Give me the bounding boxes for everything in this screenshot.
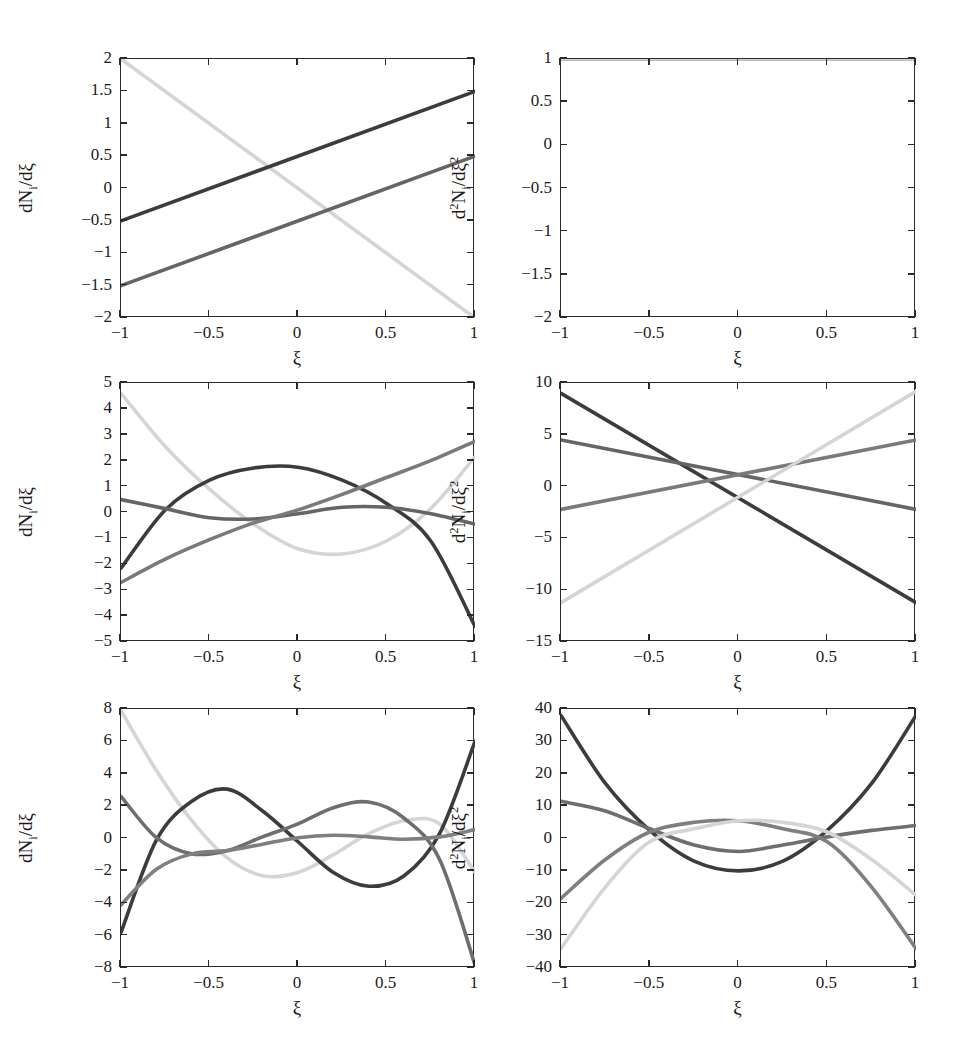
y-tick-label: −6 (62, 925, 112, 945)
y-tickmark-right (908, 187, 915, 189)
y-tickmark-right (908, 316, 915, 318)
plot-area-top-left (120, 58, 474, 317)
y-axis-label: d2Ni/dξ2 (442, 758, 466, 918)
series-line (121, 91, 475, 221)
x-tickmark-top (119, 382, 121, 389)
x-tick-label: −1 (111, 647, 129, 667)
y-tick-label: 2 (62, 795, 112, 815)
y-tickmark-right (908, 804, 915, 806)
y-tickmark (560, 381, 567, 383)
y-tick-label: −1 (502, 221, 552, 241)
y-tick-label: 5 (502, 424, 552, 444)
y-tick-label: 1.5 (62, 80, 112, 100)
series-line (121, 711, 475, 877)
series-line (561, 820, 916, 948)
figure-canvas: −2−1.5−1−0.500.511.52−1−0.500.51ξdNi/dξ−… (0, 0, 975, 1052)
x-tickmark (385, 960, 387, 967)
y-tick-label: 4 (62, 398, 112, 418)
y-tick-label: 30 (502, 730, 552, 750)
x-axis-label: ξ (120, 347, 474, 369)
y-tickmark (560, 144, 567, 146)
x-tickmark (208, 634, 210, 641)
x-tickmark-top (385, 58, 387, 65)
y-tickmark (120, 707, 127, 709)
y-tick-label: 0 (502, 828, 552, 848)
x-tickmark-top (914, 58, 916, 65)
y-tick-label: 5 (62, 372, 112, 392)
x-tickmark-top (826, 382, 828, 389)
x-axis-label: ξ (560, 671, 915, 693)
y-tickmark (120, 966, 127, 968)
x-tickmark-top (208, 382, 210, 389)
y-tickmark-right (908, 934, 915, 936)
y-tickmark-right (908, 740, 915, 742)
y-tick-label: 10 (502, 372, 552, 392)
y-tickmark (560, 485, 567, 487)
y-tickmark (120, 433, 127, 435)
plot-panel-top-right: −2−1.5−1−0.500.51−1−0.500.51ξd2Ni/dξ2 (0, 0, 975, 1052)
x-tick-label: 0 (293, 973, 302, 993)
y-axis-label: d2Ni/dξ2 (442, 432, 466, 592)
x-tickmark (119, 310, 121, 317)
y-tick-label: 2 (62, 48, 112, 68)
y-tick-label: 2 (62, 450, 112, 470)
y-tickmark (120, 459, 127, 461)
x-tickmark (559, 960, 561, 967)
y-tickmark (120, 407, 127, 409)
y-tick-label: 0.5 (502, 91, 552, 111)
x-tickmark (385, 310, 387, 317)
x-tickmark-top (826, 58, 828, 65)
y-tick-label: 20 (502, 763, 552, 783)
y-tickmark-right (467, 284, 474, 286)
y-tick-label: 4 (62, 763, 112, 783)
y-tick-label: −15 (502, 631, 552, 651)
y-tickmark-right (908, 230, 915, 232)
x-tick-label: −1 (551, 323, 569, 343)
plot-panel-middle-right: −15−10−50510−1−0.500.51ξd2Ni/dξ2 (0, 0, 975, 1052)
curves-bottom-right (561, 709, 916, 968)
y-tickmark-right (467, 485, 474, 487)
y-tickmark-right (467, 537, 474, 539)
y-tickmark (120, 381, 127, 383)
y-tickmark (560, 230, 567, 232)
y-tickmark (120, 589, 127, 591)
x-tickmark-top (296, 382, 298, 389)
y-tickmark-right (467, 563, 474, 565)
x-tick-label: −0.5 (633, 323, 664, 343)
y-tick-label: −5 (502, 527, 552, 547)
y-tick-label: −30 (502, 925, 552, 945)
y-tickmark (120, 511, 127, 513)
curves-top-right (561, 59, 916, 318)
y-tickmark-right (467, 407, 474, 409)
y-tickmark (560, 837, 567, 839)
y-tick-label: 0 (502, 134, 552, 154)
x-tick-label: −0.5 (193, 973, 224, 993)
x-tickmark (737, 960, 739, 967)
y-tickmark (120, 837, 127, 839)
x-tick-label: 1 (470, 973, 479, 993)
series-line (121, 500, 475, 525)
x-tickmark (648, 310, 650, 317)
x-tickmark (914, 634, 916, 641)
y-tickmark (120, 219, 127, 221)
y-tickmark-right (467, 122, 474, 124)
x-tickmark-top (119, 58, 121, 65)
y-tickmark (560, 100, 567, 102)
x-tickmark-top (385, 708, 387, 715)
y-tickmark-right (467, 316, 474, 318)
y-tick-label: 8 (62, 698, 112, 718)
y-tickmark (120, 614, 127, 616)
x-tickmark (208, 960, 210, 967)
y-tick-label: −8 (62, 957, 112, 977)
y-tickmark (560, 187, 567, 189)
y-tick-label: 6 (62, 730, 112, 750)
y-tickmark (560, 537, 567, 539)
y-tickmark (120, 90, 127, 92)
x-tickmark (648, 634, 650, 641)
x-tickmark (826, 634, 828, 641)
x-tick-label: 0 (733, 973, 742, 993)
y-tickmark-right (467, 511, 474, 513)
y-tickmark (560, 869, 567, 871)
y-axis-label: d2Ni/dξ2 (442, 108, 466, 268)
y-tickmark-right (467, 640, 474, 642)
